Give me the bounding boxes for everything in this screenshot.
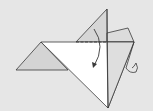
origami-diagram bbox=[0, 0, 153, 111]
